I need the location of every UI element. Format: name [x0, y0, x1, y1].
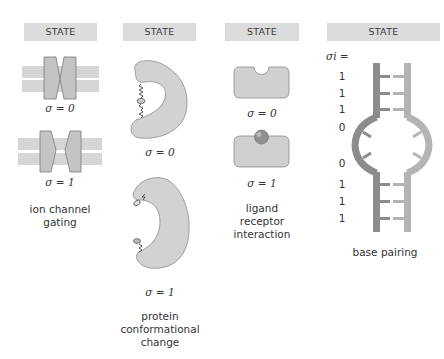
unpaired-base	[413, 132, 421, 137]
caption-line: ion channel	[10, 203, 110, 216]
caption-line: receptor	[212, 215, 312, 228]
spring-bottom	[139, 104, 143, 118]
channel-subunit-left	[44, 57, 60, 99]
ion-channel-closed	[22, 57, 99, 99]
receptor-body	[234, 67, 289, 98]
protein-closed	[131, 61, 187, 139]
strand-left-top	[373, 63, 380, 118]
base-pair-right	[393, 183, 404, 186]
base-pair-left	[380, 217, 390, 220]
base-pair-right	[393, 75, 404, 78]
ion-channel-state-0-label: σ = 0	[30, 102, 90, 114]
sigma-value: 1	[336, 70, 348, 82]
caption-line: conformational	[110, 323, 210, 336]
protein-state-1-label: σ = 1	[130, 286, 190, 298]
ion-channel-open	[18, 131, 102, 172]
caption-line: protein	[110, 310, 210, 323]
receptor-empty	[234, 67, 289, 98]
strand-left-bottom	[373, 172, 380, 232]
channel-subunit-left	[40, 131, 56, 172]
ligand-state-0-label: σ = 0	[232, 107, 292, 119]
base-pair-left	[380, 75, 390, 78]
strand-right-bottom	[404, 172, 411, 232]
caption-line: interaction	[212, 228, 312, 241]
ligand-state-1-label: σ = 1	[232, 177, 292, 189]
ligand-caption: ligand receptor interaction	[212, 202, 312, 241]
ligand-ball	[255, 130, 269, 144]
caption-line: ligand	[212, 202, 312, 215]
sigma-value: 1	[336, 195, 348, 207]
base-pair-right	[393, 92, 404, 95]
rna-hairpin	[355, 63, 429, 232]
receptor-bound	[234, 130, 289, 167]
base-pair-right	[393, 200, 404, 203]
loop-left	[355, 117, 377, 173]
caption-line: gating	[10, 216, 110, 229]
sigma-value: 0	[336, 121, 348, 133]
base-pair-right	[393, 217, 404, 220]
unpaired-base	[413, 153, 421, 158]
binding-domain	[137, 99, 145, 104]
unpaired-base	[363, 132, 371, 137]
base-pairs-bottom	[380, 183, 404, 220]
ligand-highlight	[257, 132, 262, 137]
base-pairing-caption: base pairing	[335, 246, 435, 259]
sigma-value: 1	[336, 212, 348, 224]
base-pair-left	[380, 92, 390, 95]
protein-open	[133, 178, 189, 269]
protein-caption: protein conformational change	[110, 310, 210, 349]
membrane-band	[18, 138, 102, 150]
spring-bottom	[139, 244, 142, 252]
sigma-i-label: σi =	[326, 50, 356, 62]
ion-channel-state-1-label: σ = 1	[30, 176, 90, 188]
membrane-band	[18, 153, 102, 165]
caption-line: base pairing	[335, 246, 435, 259]
protein-state-0-label: σ = 0	[130, 146, 190, 158]
channel-subunit-right	[60, 57, 76, 99]
base-pair-left	[380, 108, 390, 111]
sigma-value: 1	[336, 178, 348, 190]
base-pair-left	[380, 200, 390, 203]
strand-right-top	[404, 63, 411, 118]
channel-subunit-right	[65, 131, 81, 172]
base-pair-left	[380, 183, 390, 186]
ion-channel-caption: ion channel gating	[10, 203, 110, 229]
unpaired-base	[363, 153, 371, 158]
base-pairs-top	[380, 75, 404, 111]
base-pair-right	[393, 108, 404, 111]
sigma-value: 1	[336, 103, 348, 115]
binding-domain-bottom	[134, 239, 141, 244]
sigma-value: 1	[336, 87, 348, 99]
spring-top	[139, 84, 143, 98]
caption-line: change	[110, 336, 210, 349]
protein-body	[133, 178, 189, 269]
sigma-value: 0	[336, 157, 348, 169]
loop-right	[408, 117, 430, 173]
